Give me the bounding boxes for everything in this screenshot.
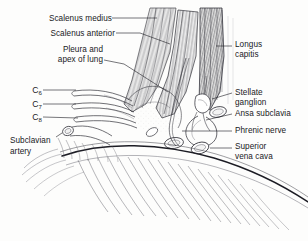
label-scalenus-anterior: Scalenus anterior bbox=[0, 29, 117, 39]
label-subclavian-artery-line1: Subclavian bbox=[10, 136, 51, 146]
label-pleura-line1: Pleura and bbox=[0, 45, 105, 55]
label-pleura-line2: apex of lung bbox=[0, 55, 105, 65]
label-superior-vena-cava-line1: Superior bbox=[235, 142, 266, 152]
label-c7: C7 bbox=[0, 99, 44, 109]
label-c6-letter: C bbox=[32, 85, 38, 95]
label-superior-vena-cava-line2: vena cava bbox=[235, 152, 273, 162]
label-c6-subscript: 6 bbox=[39, 89, 42, 96]
label-longus-capitis-line1: Longus bbox=[235, 40, 262, 50]
label-c7-subscript: 7 bbox=[39, 103, 42, 110]
label-ansa-subclavia: Ansa subclavia bbox=[235, 109, 291, 119]
label-stellate-ganglion-line1: Stellate bbox=[235, 88, 263, 98]
label-phrenic-nerve: Phrenic nerve bbox=[235, 126, 286, 136]
label-c7-letter: C bbox=[32, 99, 38, 109]
label-scalenus-medius: Scalenus medius bbox=[0, 14, 114, 24]
anatomical-figure: Scalenus medius Scalenus anterior Pleura… bbox=[0, 0, 308, 241]
label-stellate-ganglion-line2: ganglion bbox=[235, 98, 266, 108]
label-c8-letter: C bbox=[32, 112, 38, 122]
label-longus-capitis-line2: capitis bbox=[235, 50, 259, 60]
label-subclavian-artery-line2: artery bbox=[10, 147, 31, 157]
label-c8: C8 bbox=[0, 112, 44, 122]
label-c8-subscript: 8 bbox=[39, 116, 42, 123]
label-c6: C6 bbox=[0, 85, 44, 95]
